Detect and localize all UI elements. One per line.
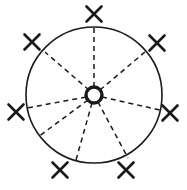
cross-marker-lower-left xyxy=(53,163,68,178)
cross-marker-upper-left xyxy=(25,35,40,50)
spoke-northwest xyxy=(45,52,89,90)
wheel-diagram-svg xyxy=(0,0,187,190)
cross-marker-top xyxy=(87,7,102,22)
cross-marker-lower-right xyxy=(119,163,134,178)
cross-marker-right xyxy=(163,106,178,121)
wheel-diagram-canvas xyxy=(0,0,187,190)
spoke-east xyxy=(102,97,160,110)
spoke-northeast xyxy=(100,52,145,90)
cross-marker-upper-right xyxy=(150,36,165,51)
spoke-southeast xyxy=(98,102,128,158)
spoke-west xyxy=(27,97,86,108)
cross-markers-group xyxy=(9,7,178,178)
center-hub-circle xyxy=(86,87,102,103)
spoke-southwest xyxy=(38,100,88,137)
spoke-south xyxy=(76,103,92,160)
cross-marker-left xyxy=(9,105,24,120)
